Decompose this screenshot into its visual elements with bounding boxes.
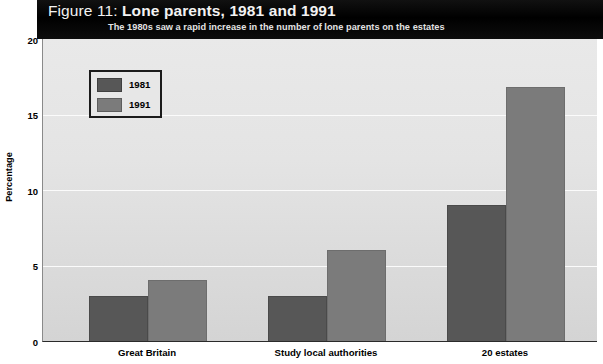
figure-container: Figure 11: Lone parents, 1981 and 1991 T… (0, 0, 603, 364)
legend: 1981 1991 (89, 70, 162, 118)
bar-study-local-authorities-1981 (268, 296, 327, 342)
bar-great-britain-1981 (89, 296, 148, 342)
x-tick-20-estates: 20 estates (482, 347, 528, 358)
y-tick-20: 20 (4, 35, 38, 46)
figure-title-text: Lone parents, 1981 and 1991 (122, 2, 336, 19)
legend-label-1981: 1981 (129, 79, 150, 90)
figure-header-band: Figure 11: Lone parents, 1981 and 1991 T… (37, 0, 603, 39)
legend-swatch-1991-icon (97, 98, 122, 112)
bar-20-estates-1981 (447, 205, 506, 341)
bar-great-britain-1991 (148, 280, 207, 341)
x-tick-great-britain: Great Britain (118, 347, 176, 358)
legend-swatch-1981-icon (97, 78, 122, 92)
figure-number: Figure 11: (48, 2, 122, 19)
x-tick-study-local-authorities: Study local authorities (275, 347, 378, 358)
y-tick-15: 15 (4, 109, 38, 120)
bar-study-local-authorities-1991 (327, 250, 386, 341)
bar-20-estates-1991 (506, 87, 565, 342)
figure-title: Figure 11: Lone parents, 1981 and 1991 (48, 2, 336, 20)
y-tick-0: 0 (4, 337, 38, 348)
figure-subtitle: The 1980s saw a rapid increase in the nu… (108, 22, 445, 32)
legend-label-1991: 1991 (129, 99, 150, 110)
y-axis-label: Percentage (4, 137, 14, 217)
y-tick-5: 5 (4, 261, 38, 272)
